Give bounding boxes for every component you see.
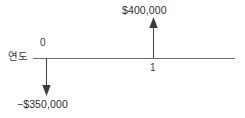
axis-name-label: 연도	[8, 51, 28, 62]
outflow-arrow-period-0	[42, 59, 50, 97]
tick-label-period-1: 1	[150, 63, 156, 73]
inflow-arrow-head	[149, 17, 157, 28]
inflow-arrow-period-1	[149, 17, 157, 59]
tick-label-period-0: 0	[40, 38, 46, 48]
cash-flow-timeline-diagram: 연도 0 1 $400,000 −$350,000	[0, 0, 245, 118]
outflow-arrow-head	[42, 85, 50, 96]
inflow-value-label: $400,000	[122, 5, 167, 16]
outflow-value-label: −$350,000	[17, 99, 68, 110]
